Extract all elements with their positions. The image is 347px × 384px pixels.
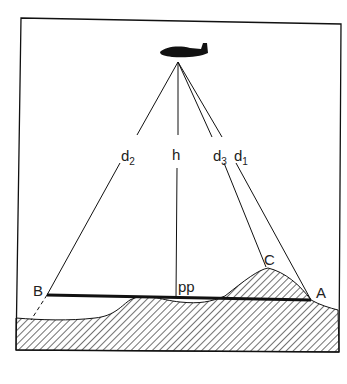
ray-d1 bbox=[178, 62, 222, 137]
aerial-photo-geometry-diagram: d2 h d3 d1 B A C pp bbox=[0, 0, 347, 384]
label-h: h bbox=[172, 146, 180, 163]
label-B: B bbox=[33, 282, 43, 299]
ray-h-lower bbox=[176, 168, 177, 298]
label-A: A bbox=[316, 284, 326, 301]
ray-d2 bbox=[137, 62, 178, 135]
label-d3: d3 bbox=[213, 147, 227, 167]
label-C: C bbox=[264, 251, 275, 268]
airplane-icon bbox=[160, 43, 208, 57]
ray-d2-lower bbox=[47, 163, 120, 295]
ray-d3 bbox=[178, 62, 212, 137]
label-d2: d2 bbox=[121, 147, 135, 167]
label-pp: pp bbox=[178, 278, 195, 295]
